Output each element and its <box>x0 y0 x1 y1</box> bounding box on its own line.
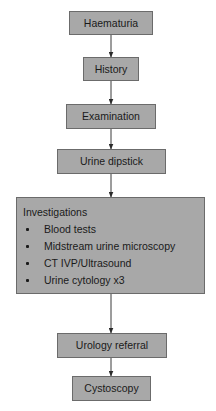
node-investigations: Investigations Blood tests Midstream uri… <box>16 197 205 294</box>
node-cystoscopy: Cystoscopy <box>72 376 151 401</box>
list-item-text: Blood tests <box>44 221 96 238</box>
node-label: History <box>95 64 128 75</box>
node-examination: Examination <box>66 104 156 129</box>
bullet-icon <box>26 245 29 248</box>
list-item-text: Midstream urine microscopy <box>44 238 175 255</box>
investigations-title: Investigations <box>23 204 204 221</box>
node-label: Cystoscopy <box>84 383 138 394</box>
node-urine-dipstick: Urine dipstick <box>57 149 166 174</box>
list-item: Blood tests <box>23 221 204 238</box>
node-label: Urine dipstick <box>80 156 143 167</box>
list-item: CT IVP/Ultrasound <box>23 255 204 272</box>
node-urology-referral: Urology referral <box>57 333 167 358</box>
node-label: Haematuria <box>84 18 138 29</box>
node-label: Urology referral <box>76 340 148 351</box>
list-item-text: CT IVP/Ultrasound <box>44 255 131 272</box>
list-item: Midstream urine microscopy <box>23 238 204 255</box>
bullet-icon <box>26 228 29 231</box>
list-item: Urine cytology x3 <box>23 272 204 289</box>
bullet-icon <box>26 262 29 265</box>
node-haematuria: Haematuria <box>69 11 153 35</box>
investigations-list: Blood tests Midstream urine microscopy C… <box>23 221 204 289</box>
list-item-text: Urine cytology x3 <box>44 272 125 289</box>
node-label: Examination <box>82 111 140 122</box>
bullet-icon <box>26 279 29 282</box>
node-history: History <box>83 57 139 81</box>
